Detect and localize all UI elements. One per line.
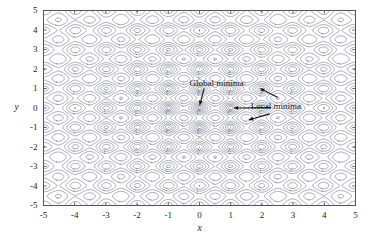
contour-line (349, 201, 356, 205)
contour-line (46, 111, 68, 124)
x-tick-label: -2 (123, 211, 151, 220)
contour-line (146, 16, 158, 24)
contour-line (84, 16, 95, 23)
contour-line (141, 131, 163, 145)
contour-line (147, 114, 158, 121)
contour-line (75, 108, 76, 109)
y-tick-label: 4 (10, 26, 38, 35)
contour-line (179, 17, 189, 23)
contour-line (301, 151, 320, 163)
x-axis-title: x (190, 224, 210, 234)
contour-line (134, 144, 142, 149)
contour-line (302, 74, 316, 83)
contour-line (284, 45, 301, 55)
contour-line (82, 74, 96, 83)
contour-line (345, 44, 356, 55)
contour-line (214, 156, 217, 158)
contour-line (306, 57, 313, 62)
contour-line (288, 163, 297, 169)
contour-line (103, 106, 109, 110)
contour-line (180, 96, 189, 101)
contour-line (70, 124, 81, 131)
contour-line (134, 125, 140, 129)
contour-line (274, 174, 281, 179)
contour-line (176, 152, 191, 162)
contour-line (336, 95, 346, 101)
y-tick-label: -4 (10, 182, 38, 191)
y-tick-label: 2 (10, 65, 38, 74)
y-tick-label: 3 (10, 45, 38, 54)
contour-line (207, 112, 224, 123)
contour-line (313, 25, 333, 38)
contour-line (163, 27, 173, 34)
contour-line (255, 142, 269, 150)
contour-line (196, 164, 202, 168)
contour-line (44, 201, 51, 205)
contour-line (349, 27, 355, 34)
contour-line (264, 149, 355, 206)
contour-line (335, 75, 347, 83)
y-tick-label: -2 (10, 143, 38, 152)
contour-line (288, 28, 297, 34)
contour-line (331, 92, 353, 105)
contour-line (112, 33, 130, 45)
contour-line (320, 145, 327, 149)
contour-line (173, 170, 195, 184)
contour-line (144, 53, 161, 64)
contour-line (243, 155, 250, 160)
contour-line (193, 46, 206, 54)
contour-line (258, 67, 266, 72)
contour-line (115, 55, 127, 63)
x-tick-label: -3 (92, 211, 120, 220)
contour-line (134, 67, 142, 72)
annotation-label-local-minima: Local minima (251, 102, 301, 111)
x-tick-label: -4 (61, 211, 89, 220)
contour-line (208, 152, 223, 162)
contour-line (241, 16, 253, 24)
contour-line (163, 182, 173, 189)
contour-line (314, 44, 332, 55)
contour-line (205, 190, 225, 203)
contour-line (258, 125, 264, 129)
contour-line (314, 160, 332, 171)
contour-line (318, 11, 329, 15)
contour-line (236, 131, 258, 145)
contour-line (66, 197, 88, 206)
contour-line (53, 95, 63, 101)
contour-line (196, 48, 202, 52)
y-tick-label: -1 (10, 123, 38, 132)
contour-line (227, 145, 233, 149)
axis-ticks (44, 11, 356, 206)
contour-line (270, 113, 285, 122)
contour-line (104, 87, 109, 90)
contour-line (113, 93, 128, 102)
contour-line (193, 162, 206, 170)
plot-border (44, 11, 356, 206)
contour-line (141, 72, 163, 86)
contour-line (301, 53, 320, 65)
contour-line (285, 142, 300, 151)
contour-line (318, 85, 329, 92)
contour-line (44, 149, 135, 206)
contour-line (196, 106, 202, 110)
contour-line (165, 106, 173, 111)
contour-line (210, 193, 220, 199)
contour-line (143, 112, 162, 124)
contour-line (146, 74, 159, 82)
contour-line (302, 133, 316, 142)
contour-line (104, 126, 109, 129)
contour-line (80, 151, 99, 163)
contour-line (285, 65, 300, 74)
contour-line (276, 117, 279, 119)
contour-line (158, 102, 179, 115)
contour-line (44, 178, 58, 192)
contour-line (134, 106, 142, 111)
contour-line (52, 75, 64, 83)
contour-line (173, 190, 193, 203)
contour-line (211, 115, 220, 120)
contour-line (147, 95, 158, 102)
contour-line (53, 36, 64, 43)
contour-line (146, 192, 158, 200)
contour-line (145, 172, 159, 181)
contour-line (44, 11, 135, 68)
